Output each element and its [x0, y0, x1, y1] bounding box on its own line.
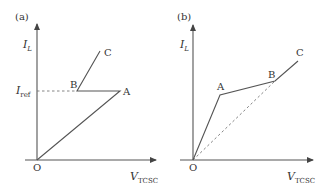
panel-a-origin-label: O: [33, 162, 41, 173]
panel-b-label: (b): [177, 11, 191, 22]
panel-a-characteristic-curve: [37, 51, 120, 160]
panel-a-point-a: A: [122, 86, 131, 97]
panel-b-point-c: C: [296, 47, 304, 58]
panel-b-point-a: A: [216, 81, 225, 92]
panel-a-label: (a): [15, 11, 29, 22]
panel-a-x-axis-label: VTCSC: [130, 170, 158, 185]
panel-a-point-c: C: [104, 47, 112, 58]
panel-a: (a) IL VTCSC O Iref A B C: [15, 11, 158, 185]
panel-b-origin-label: O: [189, 162, 197, 173]
panel-b: (b) IL VTCSC O A B C: [177, 11, 315, 185]
panel-b-point-b: B: [268, 69, 275, 80]
panel-b-x-axis-label: VTCSC: [287, 170, 315, 185]
panel-a-y-axis-label: IL: [22, 38, 32, 53]
panel-a-point-b: B: [70, 79, 77, 90]
tcsc-characteristic-diagram: (a) IL VTCSC O Iref A B C (b) IL VTCSC O…: [0, 0, 329, 187]
panel-b-dashed-line: [193, 81, 275, 160]
panel-b-y-axis-label: IL: [179, 38, 189, 53]
panel-a-iref-label: Iref: [15, 84, 32, 99]
